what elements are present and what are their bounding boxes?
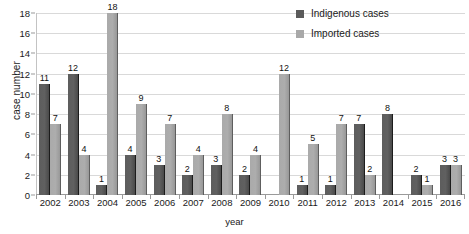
bar-value-label: 9: [139, 94, 144, 103]
bar-value-label: 2: [414, 165, 419, 174]
legend-swatch-icon: [296, 10, 304, 18]
bar: 1: [325, 185, 336, 195]
x-tick-label: 2009: [236, 197, 265, 208]
bar: 2: [365, 175, 376, 195]
x-tick-label: 2003: [65, 197, 94, 208]
bar-slot: 3: [211, 13, 222, 195]
bar-value-label: 7: [356, 114, 361, 123]
bar-value-label: 2: [367, 165, 372, 174]
y-tick-label: 8: [25, 109, 30, 120]
bar: 1: [422, 185, 433, 195]
bar: 4: [193, 155, 204, 195]
y-tick-mark: [31, 13, 35, 14]
bar-slot: 7: [50, 13, 61, 195]
bar-slot: 1: [297, 13, 308, 195]
bar-group: 17: [322, 13, 351, 195]
bar-slot: 11: [39, 13, 50, 195]
bar-slot: 4: [125, 13, 136, 195]
bar: 3: [211, 165, 222, 195]
bar: 7: [354, 124, 365, 195]
y-tick-label: 2: [25, 169, 30, 180]
bar-value-label: 3: [156, 155, 161, 164]
bar-value-label: 5: [310, 134, 315, 143]
bar-slot: 1: [96, 13, 107, 195]
x-tick-label: 2007: [179, 197, 208, 208]
x-tick-label: 2006: [150, 197, 179, 208]
legend-label: Imported cases: [311, 28, 379, 39]
bar: 2: [411, 175, 422, 195]
bar: 7: [336, 124, 347, 195]
bar-group: 72: [351, 13, 380, 195]
x-tick-label: 2008: [208, 197, 237, 208]
bar: 5: [308, 144, 319, 195]
bar-value-label: 4: [253, 145, 258, 154]
y-tick-mark: [31, 93, 35, 94]
bar: 12: [279, 74, 290, 195]
bar-value-label: 2: [242, 165, 247, 174]
y-tick-mark: [31, 53, 35, 54]
x-tick-label: 2012: [322, 197, 351, 208]
legend-item: Indigenous cases: [296, 8, 389, 19]
bar-slot: 0: [268, 13, 279, 195]
y-tick-label: 10: [19, 88, 30, 99]
bar: 3: [451, 165, 462, 195]
bar-slot: 12: [68, 13, 79, 195]
bar-slot: 1: [422, 13, 433, 195]
bar-value-label: 7: [53, 114, 58, 123]
bar-group: 117: [36, 13, 65, 195]
y-tick-mark: [31, 114, 35, 115]
bar: 3: [154, 165, 165, 195]
bar-group: 24: [236, 13, 265, 195]
bar-slot: 3: [451, 13, 462, 195]
bar-slot: 4: [250, 13, 261, 195]
bar-slot: 2: [411, 13, 422, 195]
bar-value-label: 1: [299, 175, 304, 184]
x-tick-label: 2011: [293, 197, 322, 208]
bar: 2: [182, 175, 193, 195]
bar-group: 80: [379, 13, 408, 195]
bar-slot: 2: [239, 13, 250, 195]
bar-value-label: 1: [425, 175, 430, 184]
y-tick-label: 4: [25, 149, 30, 160]
bar-value-label: 1: [328, 175, 333, 184]
y-tick-label: 14: [19, 48, 30, 59]
bar-value-label: 7: [339, 114, 344, 123]
bar-slot: 5: [308, 13, 319, 195]
x-tick-label: 2014: [379, 197, 408, 208]
legend: Indigenous casesImported cases: [296, 8, 389, 39]
bar-slot: 9: [136, 13, 147, 195]
bar-slot: 7: [354, 13, 365, 195]
y-tick-mark: [31, 73, 35, 74]
x-tick-label: 2010: [265, 197, 294, 208]
bar-group: 012: [265, 13, 294, 195]
bar-group: 124: [65, 13, 94, 195]
bar: 7: [165, 124, 176, 195]
bar: 12: [68, 74, 79, 195]
bar: 4: [250, 155, 261, 195]
bar: 7: [50, 124, 61, 195]
bar: 11: [39, 84, 50, 195]
bar-value-label: 8: [385, 104, 390, 113]
bar: 18: [107, 13, 118, 195]
bar-slot: 12: [279, 13, 290, 195]
y-tick-mark: [31, 134, 35, 135]
y-tick-label: 18: [19, 8, 30, 19]
bar-group: 21: [408, 13, 437, 195]
bar-slot: 2: [365, 13, 376, 195]
bar-value-label: 3: [453, 155, 458, 164]
y-tick-mark: [31, 195, 35, 196]
y-tick-label: 12: [19, 68, 30, 79]
x-tick-label: 2002: [36, 197, 65, 208]
y-tick-mark: [31, 33, 35, 34]
bar-value-label: 8: [224, 104, 229, 113]
bar-value-label: 3: [213, 155, 218, 164]
bar-group: 38: [208, 13, 237, 195]
bar-value-label: 4: [128, 145, 133, 154]
bar-group: 49: [122, 13, 151, 195]
bar-slot: 18: [107, 13, 118, 195]
bar-slot: 0: [393, 13, 404, 195]
bar-value-label: 12: [68, 64, 78, 73]
bar-chart: case number 024681012141618 117124118493…: [0, 0, 469, 234]
bar-slot: 2: [182, 13, 193, 195]
bar-value-label: 4: [81, 145, 86, 154]
